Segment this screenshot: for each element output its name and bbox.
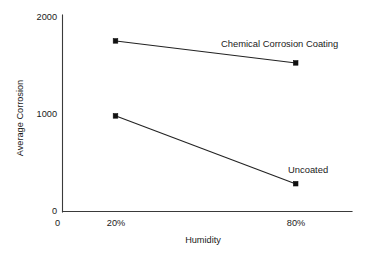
series-marker-uncoated-80 [293,181,298,186]
corrosion-line-chart: 2000 1000 0 0 20% 80% Humidity Average C… [0,0,373,256]
series-marker-uncoated-20 [113,114,118,119]
x-tick-label-80: 80% [287,218,305,228]
y-tick-label-0: 0 [52,206,57,216]
x-tick-label-0: 0 [55,218,60,228]
x-tick-label-20: 20% [107,218,125,228]
chart-canvas: 2000 1000 0 0 20% 80% Humidity Average C… [0,0,373,256]
series-marker-coated-80 [293,61,298,66]
series-label-uncoated: Uncoated [288,164,328,175]
x-axis-title: Humidity [185,235,221,245]
series-marker-coated-20 [113,39,118,44]
y-axis-title: Average Corrosion [15,80,25,156]
series-label-coated: Chemical Corrosion Coating [221,38,338,49]
y-tick-label-2000: 2000 [37,12,57,22]
y-tick-label-1000: 1000 [37,109,57,119]
series-line-uncoated [116,116,296,184]
